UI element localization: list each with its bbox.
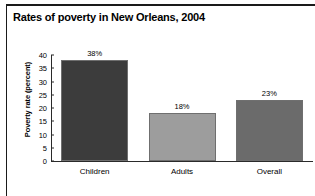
y-axis-tick-label: 40 xyxy=(25,51,51,60)
y-axis-tick-mark xyxy=(51,81,54,82)
y-axis-tick-label: 10 xyxy=(25,130,51,139)
bar-value-label: 38% xyxy=(87,49,102,58)
y-axis-tick-mark xyxy=(51,147,54,148)
y-axis-tick-label: 35 xyxy=(25,64,51,73)
y-axis-tick-label: 0 xyxy=(25,157,51,166)
bar xyxy=(236,100,303,161)
y-axis-tick-label: 5 xyxy=(25,143,51,152)
bar xyxy=(149,113,216,161)
x-axis-tick-label: Adults xyxy=(171,167,193,176)
bar-value-label: 23% xyxy=(262,89,277,98)
y-axis-tick-label: 25 xyxy=(25,90,51,99)
x-axis-tick-label: Overall xyxy=(257,167,282,176)
figure-frame-left-rule xyxy=(6,4,7,196)
y-axis-tick-mark xyxy=(51,68,54,69)
bar-value-label: 18% xyxy=(174,102,189,111)
chart-title: Rates of poverty in New Orleans, 2004 xyxy=(13,11,205,23)
y-axis-tick-mark xyxy=(51,108,54,109)
y-axis-tick-label: 15 xyxy=(25,117,51,126)
bar xyxy=(61,60,128,161)
y-axis-tick-mark xyxy=(51,134,54,135)
y-axis-tick-mark xyxy=(51,161,54,162)
y-axis-tick-mark xyxy=(51,94,54,95)
y-axis-tick-mark xyxy=(51,55,54,56)
x-axis-tick-label: Children xyxy=(80,167,110,176)
x-axis-line xyxy=(51,161,313,162)
y-axis-tick-label: 30 xyxy=(25,77,51,86)
figure-frame-top-rule xyxy=(6,4,315,6)
y-axis-tick-mark xyxy=(51,121,54,122)
chart-figure: Rates of poverty in New Orleans, 2004 Po… xyxy=(0,0,315,196)
y-axis-tick-label: 20 xyxy=(25,104,51,113)
plot-area: 0510152025303540 38%18%23% xyxy=(51,55,313,161)
